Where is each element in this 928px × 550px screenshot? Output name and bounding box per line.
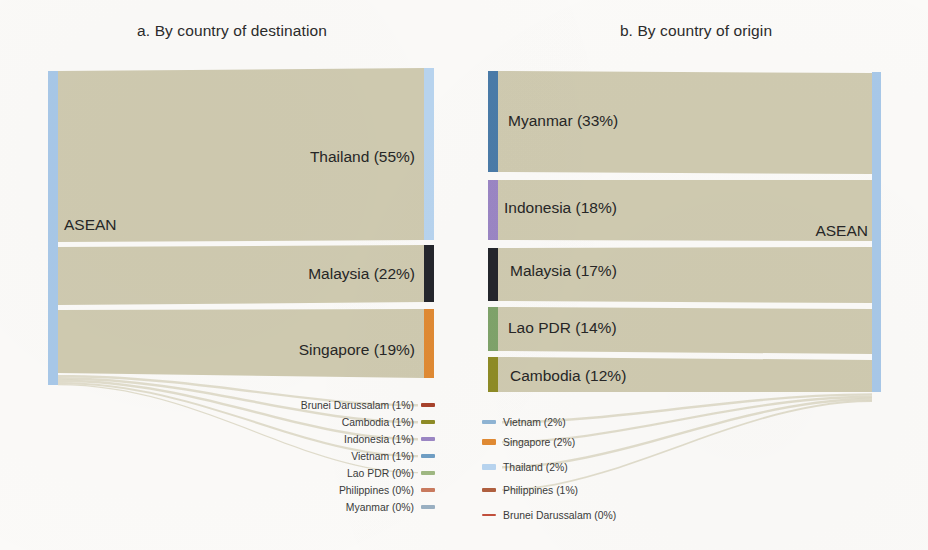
legend-item-indonesia[interactable]: Indonesia (1%) bbox=[250, 432, 435, 446]
legend-label-laopdr: Lao PDR (0%) bbox=[340, 468, 421, 479]
node-cambodia[interactable] bbox=[488, 357, 498, 392]
legend-item-b-philippines[interactable]: Philippines (1%) bbox=[482, 483, 585, 497]
legend-label-b-brunei: Brunei Darussalam (0%) bbox=[496, 510, 623, 521]
node-thailand[interactable] bbox=[424, 68, 434, 240]
legend-label-philippines: Philippines (0%) bbox=[332, 485, 421, 496]
legend-item-vietnam[interactable]: Vietnam (1%) bbox=[250, 449, 435, 463]
label-indonesia: Indonesia (18%) bbox=[504, 199, 617, 217]
label-asean-source: ASEAN bbox=[64, 216, 117, 234]
swatch-brunei-icon bbox=[421, 403, 435, 407]
swatch-b-brunei-icon bbox=[482, 514, 496, 517]
swatch-myanmar-icon bbox=[421, 505, 435, 509]
node-singapore-dest[interactable] bbox=[424, 309, 434, 378]
swatch-b-thailand-icon bbox=[482, 464, 496, 470]
label-singapore-dest: Singapore (19%) bbox=[200, 341, 415, 359]
swatch-philippines-icon bbox=[421, 488, 435, 492]
swatch-indonesia-icon bbox=[421, 437, 435, 441]
swatch-cambodia-icon bbox=[421, 420, 435, 424]
label-myanmar: Myanmar (33%) bbox=[508, 112, 618, 130]
swatch-b-vietnam-icon bbox=[482, 420, 496, 424]
node-asean-source[interactable] bbox=[48, 71, 58, 385]
legend-label-b-philippines: Philippines (1%) bbox=[496, 485, 585, 496]
legend-label-myanmar: Myanmar (0%) bbox=[339, 502, 421, 513]
label-cambodia: Cambodia (12%) bbox=[510, 367, 626, 385]
label-asean-target: ASEAN bbox=[700, 222, 868, 240]
legend-label-brunei: Brunei Darussalam (1%) bbox=[294, 400, 421, 411]
node-myanmar[interactable] bbox=[488, 71, 498, 172]
swatch-b-philippines-icon bbox=[482, 488, 496, 492]
legend-item-myanmar[interactable]: Myanmar (0%) bbox=[250, 500, 435, 514]
legend-item-b-brunei[interactable]: Brunei Darussalam (0%) bbox=[482, 508, 623, 522]
legend-item-brunei[interactable]: Brunei Darussalam (1%) bbox=[250, 398, 435, 412]
node-indonesia[interactable] bbox=[488, 180, 498, 240]
sankey-diagram bbox=[0, 0, 928, 550]
legend-item-b-singapore[interactable]: Singapore (2%) bbox=[482, 435, 582, 449]
legend-item-philippines[interactable]: Philippines (0%) bbox=[250, 483, 435, 497]
node-asean-target[interactable] bbox=[872, 72, 881, 392]
legend-item-laopdr[interactable]: Lao PDR (0%) bbox=[250, 466, 435, 480]
node-laopdr[interactable] bbox=[488, 307, 498, 351]
node-malaysia-dest[interactable] bbox=[424, 245, 434, 302]
label-laopdr: Lao PDR (14%) bbox=[508, 319, 617, 337]
label-malaysia-dest: Malaysia (22%) bbox=[200, 265, 415, 283]
legend-label-cambodia: Cambodia (1%) bbox=[335, 417, 421, 428]
legend-item-b-vietnam[interactable]: Vietnam (2%) bbox=[482, 415, 573, 429]
legend-label-indonesia: Indonesia (1%) bbox=[337, 434, 421, 445]
legend-item-cambodia[interactable]: Cambodia (1%) bbox=[250, 415, 435, 429]
label-thailand: Thailand (55%) bbox=[200, 148, 415, 166]
legend-label-b-singapore: Singapore (2%) bbox=[496, 437, 582, 448]
legend-item-b-thailand[interactable]: Thailand (2%) bbox=[482, 460, 575, 474]
swatch-b-singapore-icon bbox=[482, 439, 496, 445]
swatch-vietnam-icon bbox=[421, 454, 435, 458]
legend-label-b-vietnam: Vietnam (2%) bbox=[496, 417, 573, 428]
label-malaysia-origin: Malaysia (17%) bbox=[510, 262, 617, 280]
legend-label-vietnam: Vietnam (1%) bbox=[344, 451, 421, 462]
node-malaysia-origin[interactable] bbox=[488, 248, 498, 301]
legend-label-b-thailand: Thailand (2%) bbox=[496, 462, 575, 473]
swatch-laopdr-icon bbox=[421, 471, 435, 475]
